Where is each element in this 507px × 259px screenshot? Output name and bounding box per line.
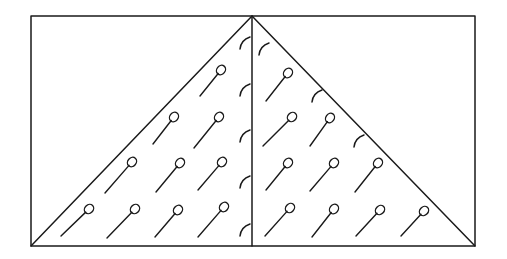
- pin-icon: [107, 202, 141, 238]
- arc-tick-icon: [312, 90, 322, 102]
- outer-frame: [31, 16, 475, 246]
- arc-tick-icon: [240, 130, 250, 142]
- pin-icon: [266, 156, 294, 190]
- diagram-canvas: [0, 0, 507, 259]
- pin-icon: [310, 111, 336, 146]
- diagram-svg: [0, 0, 507, 259]
- pin-icon: [105, 155, 138, 193]
- pin-icon: [266, 66, 294, 101]
- pin-icon: [265, 201, 296, 236]
- arc-tick-icon: [240, 224, 250, 236]
- arc-tick-icon: [240, 84, 250, 96]
- pin-icon: [401, 204, 430, 236]
- pin-icon: [355, 156, 384, 192]
- pin-icon: [312, 202, 340, 237]
- pin-icon: [156, 156, 186, 192]
- arc-tick-icon: [240, 176, 250, 188]
- arc-tick-icon: [354, 135, 364, 147]
- arc-tick-icon: [240, 37, 250, 49]
- pin-icon: [310, 156, 340, 191]
- pin-icon: [356, 203, 386, 236]
- pin-icon: [198, 155, 228, 190]
- pin-icon: [200, 63, 227, 96]
- pin-icon: [155, 203, 184, 237]
- arc-tick-icon: [259, 43, 269, 55]
- triangle-outline: [31, 16, 475, 246]
- pin-icon: [194, 110, 225, 148]
- pin-icon: [263, 110, 299, 146]
- pin-icon: [61, 203, 96, 236]
- pin-markings: [61, 63, 430, 238]
- pin-icon: [198, 200, 230, 237]
